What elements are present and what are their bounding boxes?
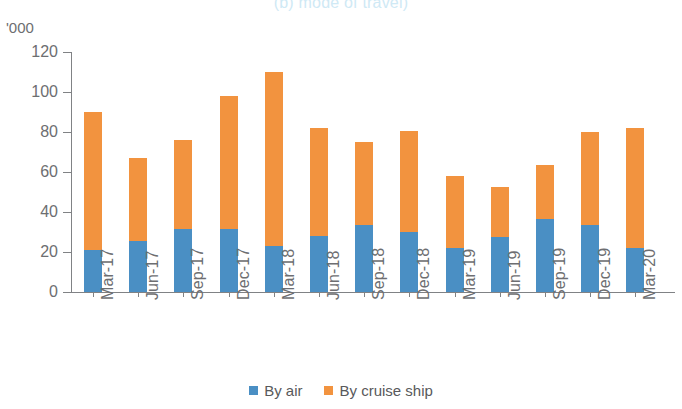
x-axis-label-jun-19: Jun-19 [507,250,523,300]
y-tick-120 [63,52,71,53]
y-tick-100 [63,92,71,93]
x-axis-label-jun-17: Jun-17 [145,250,161,300]
x-axis-label-sep-18: Sep-18 [371,248,387,300]
bar-group[interactable] [581,0,599,409]
y-tick-label-120: 120 [31,44,58,60]
square-swatch-orange-icon [324,386,333,395]
square-swatch-blue-icon [249,386,258,395]
bar-segment-by-cruise-ship[interactable] [581,132,599,225]
y-axis-line [71,52,72,293]
bar-group[interactable] [446,0,464,409]
y-tick-80 [63,132,71,133]
bar-group[interactable] [129,0,147,409]
bar-segment-by-cruise-ship[interactable] [536,165,554,219]
bar-group[interactable] [536,0,554,409]
bar-segment-by-cruise-ship[interactable] [491,187,509,237]
x-axis-label-sep-17: Sep-17 [190,248,206,300]
x-axis-label-mar-20: Mar-20 [642,249,658,300]
y-tick-label-80: 80 [40,124,58,140]
bar-segment-by-cruise-ship[interactable] [265,72,283,246]
chart-plot-area: 120100806040200 Mar-17Jun-17Sep-17Dec-17… [0,0,682,409]
y-tick-60 [63,172,71,173]
bar-segment-by-cruise-ship[interactable] [84,112,102,250]
legend-item[interactable]: By cruise ship [324,383,432,398]
legend-item-label: By air [264,383,302,398]
x-axis-label-mar-17: Mar-17 [100,249,116,300]
bar-group[interactable] [626,0,644,409]
bar-group[interactable] [265,0,283,409]
x-axis-label-mar-18: Mar-18 [281,249,297,300]
bar-group[interactable] [491,0,509,409]
y-tick-0 [63,292,71,293]
bar-segment-by-cruise-ship[interactable] [446,176,464,248]
y-tick-label-100: 100 [31,84,58,100]
y-tick-20 [63,252,71,253]
bar-group[interactable] [310,0,328,409]
bar-segment-by-cruise-ship[interactable] [129,158,147,241]
y-tick-label-60: 60 [40,164,58,180]
bar-group[interactable] [355,0,373,409]
x-axis-label-jun-18: Jun-18 [326,250,342,300]
y-tick-label-0: 0 [49,284,58,300]
bar-segment-by-cruise-ship[interactable] [400,131,418,232]
y-tick-40 [63,212,71,213]
bar-group[interactable] [400,0,418,409]
chart-legend: By airBy cruise ship [0,383,682,398]
bar-group[interactable] [84,0,102,409]
bar-segment-by-cruise-ship[interactable] [626,128,644,248]
x-axis-label-dec-17: Dec-17 [236,248,252,300]
x-axis-label-dec-18: Dec-18 [416,248,432,300]
bar-segment-by-cruise-ship[interactable] [310,128,328,236]
bar-segment-by-cruise-ship[interactable] [174,140,192,229]
legend-item-label: By cruise ship [339,383,432,398]
x-axis-label-dec-19: Dec-19 [597,248,613,300]
x-axis-label-sep-19: Sep-19 [552,248,568,300]
bar-segment-by-cruise-ship[interactable] [355,142,373,225]
legend-item[interactable]: By air [249,383,302,398]
bar-segment-by-cruise-ship[interactable] [220,96,238,229]
x-axis-label-mar-19: Mar-19 [462,249,478,300]
y-tick-label-20: 20 [40,244,58,260]
bar-group[interactable] [174,0,192,409]
bar-group[interactable] [220,0,238,409]
y-tick-label-40: 40 [40,204,58,220]
